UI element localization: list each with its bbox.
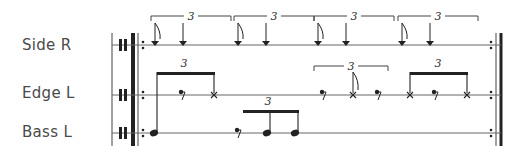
tuplet-number: 3 (351, 10, 358, 23)
tuplet-number: 3 (188, 10, 195, 23)
tuplet-number: 3 (181, 57, 188, 70)
note-flag (155, 23, 160, 39)
side-r-notes: 3333 (151, 10, 478, 46)
repeat-end-dots (490, 41, 493, 138)
tuplet-number: 3 (265, 95, 272, 108)
note-flag (353, 72, 358, 90)
tuplet-number: 3 (435, 10, 442, 23)
notation-canvas: 3333 333 3 (0, 0, 521, 153)
beam (410, 72, 468, 75)
note-flag (238, 23, 243, 39)
tuplet-number: 3 (348, 60, 355, 73)
tuplet-number: 3 (271, 10, 278, 23)
bass-l-notes: 3 (149, 95, 300, 138)
repeat-start-dots (142, 41, 145, 138)
beam (157, 72, 215, 75)
beam (243, 110, 299, 113)
note-flag (318, 23, 323, 39)
note-flag (402, 23, 407, 39)
tuplet-number: 3 (435, 57, 442, 70)
edge-l-notes: 333 (157, 57, 470, 131)
